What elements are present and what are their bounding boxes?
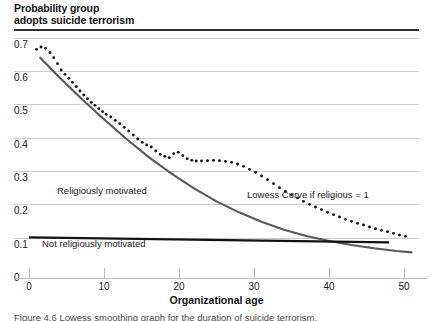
lowess-data-point bbox=[248, 168, 251, 171]
lowess-data-point bbox=[350, 220, 353, 223]
lowess-data-point bbox=[44, 47, 47, 50]
lowess-data-point bbox=[35, 48, 38, 51]
x-tick-label: 20 bbox=[173, 281, 184, 292]
x-tick-label: 50 bbox=[398, 281, 409, 292]
lowess-data-point bbox=[368, 226, 371, 229]
x-tick-label: 10 bbox=[98, 281, 109, 292]
figure-container: Probability group adopts suicide terrori… bbox=[0, 0, 433, 321]
y-axis-title-line-2: adopts suicide terrorism bbox=[14, 15, 264, 27]
x-tick-label: 0 bbox=[26, 281, 32, 292]
lowess-data-point bbox=[49, 51, 52, 54]
x-axis-title: Organizational age bbox=[0, 294, 433, 306]
lowess-data-point bbox=[326, 211, 329, 214]
lowess-data-point bbox=[94, 104, 97, 107]
lowess-data-point bbox=[254, 171, 257, 174]
lowess-data-point bbox=[356, 222, 359, 225]
x-tick-mark bbox=[254, 268, 255, 278]
y-axis-title-line-1: Probability group bbox=[14, 3, 264, 15]
lowess-data-point bbox=[200, 160, 203, 163]
lowess-data-point bbox=[172, 152, 175, 155]
lowess-data-point bbox=[236, 163, 239, 166]
lowess-data-point bbox=[206, 159, 209, 162]
lowess-data-point bbox=[404, 235, 407, 238]
lowess-data-point bbox=[136, 138, 139, 141]
lowess-data-point bbox=[114, 119, 117, 122]
lowess-data-point bbox=[212, 159, 215, 162]
lowess-data-point bbox=[150, 146, 153, 149]
lowess-data-point bbox=[75, 85, 78, 88]
lowess-data-point bbox=[97, 107, 100, 110]
figure-caption: Figure 4.6 Lowess smoothing graph for th… bbox=[14, 312, 414, 321]
lowess-data-point bbox=[127, 130, 130, 133]
annotation-not-religiously-motivated: Not religiously motivated bbox=[42, 238, 146, 249]
x-tick-mark bbox=[404, 268, 405, 278]
lowess-data-point bbox=[260, 175, 263, 178]
x-axis-line bbox=[14, 278, 427, 279]
lowess-data-point bbox=[79, 90, 82, 93]
lowess-data-point bbox=[86, 97, 89, 100]
lowess-data-point bbox=[302, 200, 305, 203]
lowess-data-point bbox=[40, 46, 43, 49]
x-tick-mark bbox=[179, 268, 180, 278]
lowess-data-point bbox=[332, 213, 335, 216]
lowess-data-point bbox=[141, 141, 144, 144]
lowess-data-point bbox=[386, 230, 389, 233]
plot-area bbox=[14, 31, 419, 271]
lowess-data-point bbox=[177, 151, 180, 154]
lowess-data-point bbox=[338, 216, 341, 219]
lowess-data-point bbox=[362, 224, 365, 227]
lowess-data-point bbox=[344, 218, 347, 221]
lowess-data-point bbox=[101, 110, 104, 113]
lowess-data-point bbox=[374, 227, 377, 230]
lowess-data-point bbox=[266, 178, 269, 181]
x-tick-mark bbox=[29, 268, 30, 278]
lowess-data-point bbox=[145, 144, 148, 147]
lowess-data-point bbox=[56, 62, 59, 65]
lowess-data-point bbox=[380, 229, 383, 232]
lowess-data-point bbox=[118, 122, 121, 125]
lowess-data-point bbox=[90, 101, 93, 104]
lowess-data-point bbox=[154, 150, 157, 153]
lowess-data-point bbox=[82, 94, 85, 97]
x-tick-label: 40 bbox=[323, 281, 334, 292]
lowess-data-point bbox=[224, 160, 227, 163]
lowess-data-point bbox=[186, 157, 189, 160]
lowess-data-point bbox=[392, 232, 395, 235]
lowess-data-point bbox=[181, 154, 184, 157]
lowess-data-point bbox=[60, 69, 63, 72]
lowess-data-point bbox=[159, 153, 162, 156]
lowess-data-point bbox=[52, 56, 55, 59]
x-tick-mark bbox=[329, 268, 330, 278]
lowess-data-point bbox=[64, 73, 67, 76]
lowess-data-point bbox=[123, 126, 126, 129]
lowess-data-point bbox=[314, 206, 317, 209]
lowess-data-point bbox=[109, 116, 112, 119]
lowess-data-point bbox=[320, 208, 323, 211]
annotation-religiously-motivated: Religiously motivated bbox=[57, 185, 147, 196]
lowess-data-point bbox=[190, 159, 193, 162]
lowess-data-point bbox=[168, 156, 171, 159]
lowess-data-point bbox=[163, 155, 166, 158]
annotation-lowess-curve: Lowess Curve if religious = 1 bbox=[247, 189, 369, 200]
lowess-data-point bbox=[71, 81, 74, 84]
lowess-data-point bbox=[398, 234, 401, 237]
lowess-data-point bbox=[218, 159, 221, 162]
lowess-data-point bbox=[230, 161, 233, 164]
series-svg bbox=[14, 31, 419, 271]
lowess-data-point bbox=[242, 165, 245, 168]
lowess-data-point bbox=[308, 203, 311, 206]
lowess-data-point bbox=[195, 160, 198, 163]
lowess-data-point bbox=[272, 182, 275, 185]
series-lowess-dotted bbox=[35, 46, 407, 238]
y-axis-title: Probability group adopts suicide terrori… bbox=[14, 3, 264, 26]
x-tick-mark bbox=[104, 268, 105, 278]
lowess-data-point bbox=[67, 77, 70, 80]
lowess-data-point bbox=[105, 113, 108, 116]
lowess-data-point bbox=[132, 134, 135, 137]
series-religiously-motivated bbox=[40, 58, 411, 253]
x-tick-label: 30 bbox=[248, 281, 259, 292]
